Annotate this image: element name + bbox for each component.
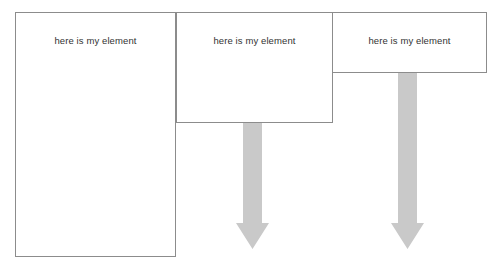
element-box-2[interactable]: here is my element <box>176 12 333 123</box>
down-arrow-icon-1 <box>236 123 269 249</box>
diagram-canvas: here is my element here is my element he… <box>0 0 504 270</box>
element-box-1[interactable]: here is my element <box>15 12 176 257</box>
down-arrow-icon-2 <box>391 73 424 249</box>
element-box-1-label: here is my element <box>16 36 175 46</box>
element-box-3[interactable]: here is my element <box>332 12 487 73</box>
element-box-2-label: here is my element <box>177 36 332 46</box>
element-box-3-label: here is my element <box>333 36 486 46</box>
